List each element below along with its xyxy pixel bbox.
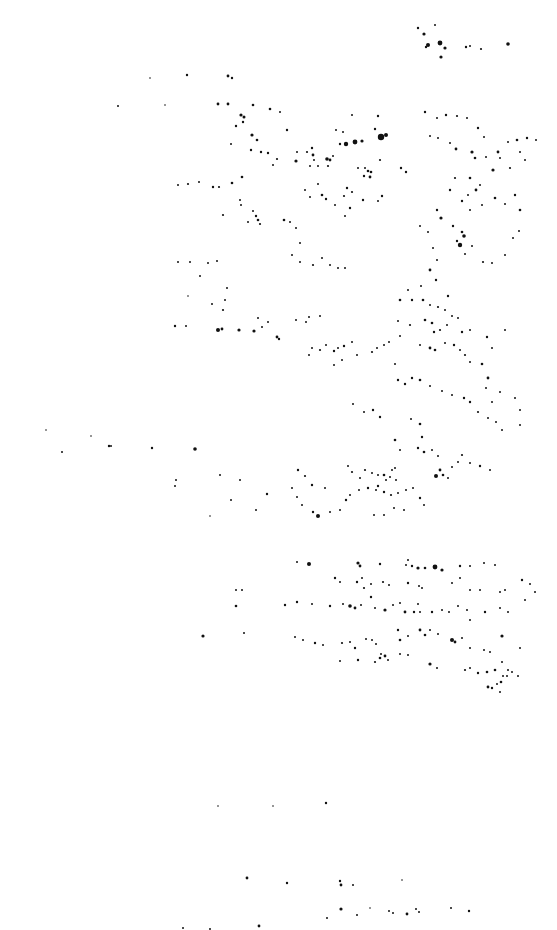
- dot: [349, 207, 351, 209]
- dot: [340, 884, 343, 887]
- dot: [312, 264, 314, 266]
- dot: [384, 655, 387, 658]
- dot: [297, 469, 299, 471]
- dot: [526, 137, 528, 139]
- dot: [439, 216, 442, 219]
- dot: [506, 42, 510, 46]
- dot: [371, 351, 373, 353]
- dot: [451, 394, 453, 396]
- dot: [467, 194, 469, 196]
- dot: [429, 135, 431, 137]
- dot: [529, 583, 531, 585]
- dot: [286, 129, 288, 131]
- dot: [395, 479, 397, 481]
- dot: [397, 379, 399, 381]
- dot: [359, 477, 361, 479]
- dot: [496, 683, 498, 685]
- dot: [441, 390, 443, 392]
- dot: [433, 331, 435, 333]
- dot: [187, 295, 189, 297]
- dot: [487, 417, 489, 419]
- dot: [346, 187, 348, 189]
- dot: [511, 671, 513, 673]
- dot: [452, 225, 454, 227]
- dot: [501, 661, 503, 663]
- dot: [419, 497, 421, 499]
- dot: [507, 141, 509, 143]
- dot: [266, 493, 268, 495]
- dot: [259, 223, 261, 225]
- dot: [177, 184, 179, 186]
- dot: [431, 449, 433, 451]
- dot: [296, 601, 298, 603]
- dot: [302, 639, 304, 641]
- dot: [349, 494, 351, 496]
- dot: [504, 203, 506, 205]
- dot: [241, 176, 244, 179]
- dot: [226, 287, 228, 289]
- dot: [451, 315, 453, 317]
- dot: [439, 329, 441, 331]
- dot: [247, 221, 249, 223]
- dot: [416, 566, 419, 569]
- dot: [356, 561, 359, 564]
- dot: [295, 227, 297, 229]
- dot: [459, 349, 461, 351]
- dot: [217, 805, 219, 807]
- dot: [487, 686, 490, 689]
- dot: [365, 638, 367, 640]
- dot: [399, 639, 402, 642]
- dot: [256, 139, 259, 142]
- dot: [399, 449, 401, 451]
- dot: [364, 167, 366, 169]
- dot: [343, 195, 345, 197]
- dot: [423, 451, 426, 454]
- dot: [333, 364, 335, 366]
- dot: [227, 103, 230, 106]
- dot: [351, 471, 353, 473]
- dot: [506, 675, 508, 677]
- dot: [231, 182, 234, 185]
- dot: [438, 41, 443, 46]
- dot: [421, 436, 423, 438]
- dot: [374, 661, 376, 663]
- dot: [423, 504, 425, 506]
- dot: [319, 315, 321, 317]
- dot: [431, 611, 433, 613]
- dot: [407, 654, 409, 656]
- dot: [524, 599, 526, 601]
- dot: [359, 565, 362, 568]
- dot: [377, 115, 379, 117]
- dot: [400, 167, 402, 169]
- dot: [289, 221, 291, 223]
- dot: [239, 199, 241, 201]
- dot: [360, 139, 363, 142]
- dot: [421, 587, 423, 589]
- dot: [217, 103, 220, 106]
- dot: [461, 331, 463, 333]
- dot: [419, 611, 421, 613]
- dot: [222, 309, 224, 311]
- dot: [411, 565, 413, 567]
- dot: [457, 461, 459, 463]
- dot: [239, 113, 242, 116]
- dot: [363, 411, 365, 413]
- dot: [272, 164, 274, 166]
- dot: [381, 195, 383, 197]
- dot: [437, 306, 439, 308]
- dot: [311, 147, 313, 149]
- dot: [417, 603, 419, 605]
- dot: [397, 629, 399, 631]
- dot: [469, 45, 471, 47]
- dot: [489, 469, 491, 471]
- dot: [356, 914, 358, 916]
- dot: [477, 127, 479, 129]
- dot: [252, 329, 255, 332]
- dot: [437, 137, 439, 139]
- dot: [224, 299, 226, 301]
- dot: [347, 465, 349, 467]
- dot: [485, 387, 487, 389]
- dot: [243, 116, 246, 119]
- dot: [379, 563, 381, 565]
- dot: [257, 219, 260, 222]
